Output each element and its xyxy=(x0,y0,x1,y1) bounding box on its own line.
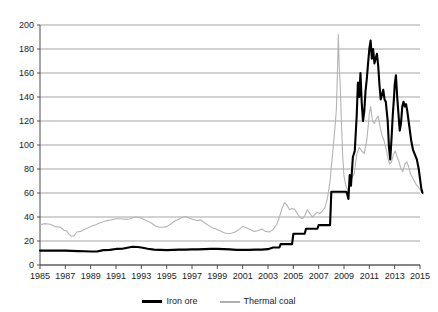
y-axis-tick-label: 160 xyxy=(6,69,34,78)
y-axis-tick-label: 100 xyxy=(6,141,34,150)
legend-entry-iron-ore: Iron ore xyxy=(142,297,197,306)
x-axis-tick-label: 2015 xyxy=(404,272,436,281)
y-axis-tick-label: 80 xyxy=(6,165,34,174)
x-axis-ticks xyxy=(40,265,420,269)
legend-label-iron-ore: Iron ore xyxy=(166,297,197,306)
legend-entry-thermal-coal: Thermal coal xyxy=(220,297,296,306)
legend-swatch-thermal-coal xyxy=(220,301,240,303)
y-axis-tick-label: 60 xyxy=(6,189,34,198)
y-axis-tick-label: 40 xyxy=(6,213,34,222)
legend-swatch-iron-ore xyxy=(142,300,162,303)
chart-legend: Iron ore Thermal coal xyxy=(0,297,438,306)
series-line-thermal-coal xyxy=(40,35,423,237)
price-chart: 020406080100120140160180200 198519871989… xyxy=(0,0,438,312)
y-axis-tick-label: 0 xyxy=(6,261,34,270)
y-axis-tick-label: 200 xyxy=(6,21,34,30)
plot-area xyxy=(0,0,438,312)
y-axis-tick-label: 180 xyxy=(6,45,34,54)
y-axis-tick-label: 140 xyxy=(6,93,34,102)
gridlines xyxy=(37,25,420,265)
y-axis-tick-label: 20 xyxy=(6,237,34,246)
legend-label-thermal-coal: Thermal coal xyxy=(244,297,296,306)
y-axis-tick-label: 120 xyxy=(6,117,34,126)
